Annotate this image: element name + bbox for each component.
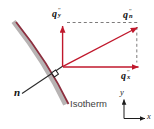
heat-flux-isotherm-diagram: q″y q″n q″x n Isotherm y x: [0, 0, 154, 129]
qx-subscript: x: [127, 74, 130, 79]
qy-subscript: y: [58, 12, 61, 17]
qx-vector-label: q″x: [121, 71, 130, 81]
x-axis-label: x: [147, 111, 151, 121]
qy-vector-label: q″y: [52, 9, 61, 19]
qx-base: q: [121, 71, 126, 81]
qn-subscript: n: [129, 13, 133, 18]
y-axis-label: y: [120, 87, 124, 97]
qy-base: q: [52, 9, 57, 19]
qn-base: q: [123, 10, 128, 20]
qn-vector-label: q″n: [123, 10, 133, 20]
normal-label: n: [14, 86, 20, 98]
isotherm-label: Isotherm: [70, 98, 107, 109]
qn-vector-arrow: [63, 28, 138, 67]
isotherm-shadow-band: [14, 22, 66, 105]
